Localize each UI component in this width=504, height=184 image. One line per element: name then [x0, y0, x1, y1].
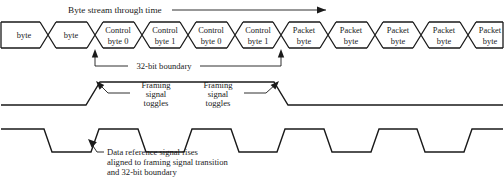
byte-cell-5-line2: byte 1 [248, 37, 269, 46]
byte-cell-8-line1: Packet [387, 26, 410, 35]
byte-cell-7-line2: byte [344, 37, 359, 46]
byte-cell-9-line2: byte [437, 37, 452, 46]
byte-cell-9-line1: Packet [433, 26, 456, 35]
data-reference-annotation: Data reference signal rises aligned to f… [107, 147, 228, 177]
byte-cell-1-line1: byte [64, 31, 79, 40]
byte-cell-0-line1: byte [17, 31, 32, 40]
data-reference-line1: Data reference signal rises [107, 147, 199, 157]
byte-cell-4-line2: byte 0 [201, 37, 222, 46]
byte-cell-2-line2: byte 0 [108, 37, 129, 46]
byte-cell-10-line1: Packet [479, 26, 502, 35]
byte-cell-8-line2: byte [391, 37, 406, 46]
byte-stream-direction-arrow [172, 7, 326, 14]
byte-cell-2-line1: Control [105, 26, 131, 35]
byte-cell-4-line1: Control [198, 26, 224, 35]
byte-stream-header-label: Byte stream through time [68, 5, 162, 15]
thirty-two-bit-boundary-label: 32-bit boundary [136, 61, 192, 71]
framing-left-leader [96, 81, 130, 93]
byte-cell-7-line1: Packet [340, 26, 363, 35]
framing-right-line3: toggles [206, 98, 231, 108]
byte-stream-timing-diagram: Byte stream through time byte byte Contr… [0, 0, 504, 184]
data-reference-signal-waveform [1, 129, 503, 152]
framing-signal-waveform [1, 82, 503, 105]
framing-left-annotation: Framing signal toggles [141, 80, 171, 108]
byte-cell-6-line2: byte [297, 37, 312, 46]
byte-cell-5-line1: Control [245, 26, 271, 35]
data-reference-line3: and 32-bit boundary [107, 167, 177, 177]
data-reference-line2: aligned to framing signal transition [107, 157, 228, 167]
byte-cell-6-line1: Packet [293, 26, 316, 35]
framing-right-annotation: Framing signal toggles [203, 80, 233, 108]
byte-cell-3-line1: Control [152, 26, 178, 35]
framing-left-line3: toggles [144, 98, 169, 108]
data-reference-leader [88, 139, 104, 152]
diagram-canvas: Byte stream through time byte byte Contr… [0, 0, 504, 184]
byte-cell-10-line2: byte [483, 37, 498, 46]
byte-cell-3-line2: byte 1 [155, 37, 176, 46]
